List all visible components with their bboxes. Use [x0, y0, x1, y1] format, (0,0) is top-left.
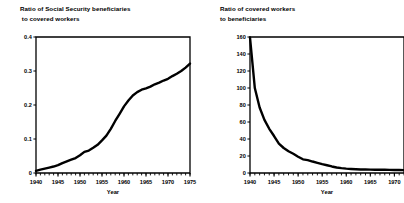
- x-tick-label: 1965: [140, 179, 152, 185]
- chart-right-canvas: 0204060801001201401601940194519501955196…: [202, 0, 404, 203]
- x-tick-label: 1960: [118, 179, 130, 185]
- chart-panel-right: Ratio of covered workersto beneficiaries…: [202, 0, 404, 203]
- data-series-line: [36, 64, 190, 171]
- x-tick-label: 1975: [184, 179, 196, 185]
- y-tick-label: 160: [236, 34, 245, 40]
- y-tick-label: 0: [243, 170, 246, 176]
- y-tick-label: 40: [240, 136, 246, 142]
- y-tick-label: 0: [29, 170, 32, 176]
- x-tick-label: 1970: [162, 179, 174, 185]
- y-tick-label: 140: [236, 51, 245, 57]
- x-tick-label: 1955: [316, 179, 328, 185]
- y-tick-label: 0.1: [24, 136, 32, 142]
- x-tick-label: 1940: [244, 179, 256, 185]
- x-tick-label: 1950: [292, 179, 304, 185]
- two-panel-figure: Ratio of Social Security beneficiaries t…: [0, 0, 404, 203]
- x-tick-label: 1945: [268, 179, 280, 185]
- y-tick-label: 120: [236, 68, 245, 74]
- y-tick-label: 0.4: [24, 34, 33, 40]
- y-tick-label: 0.2: [24, 102, 32, 108]
- y-tick-label: 0.3: [24, 68, 32, 74]
- data-series-line: [250, 38, 404, 171]
- chart-panel-left: Ratio of Social Security beneficiaries t…: [0, 0, 202, 203]
- plot-frame: [250, 37, 404, 173]
- x-tick-label: 1950: [74, 179, 86, 185]
- y-tick-label: 20: [240, 153, 246, 159]
- y-tick-label: 100: [236, 85, 245, 91]
- y-tick-label: 80: [240, 102, 246, 108]
- chart-left-canvas: 00.10.20.30.4194019451950195519601965197…: [0, 0, 202, 203]
- x-tick-label: 1965: [364, 179, 376, 185]
- x-axis-title: Year: [321, 189, 334, 195]
- x-tick-label: 1945: [52, 179, 64, 185]
- x-tick-label: 1955: [96, 179, 108, 185]
- plot-frame: [36, 37, 190, 173]
- y-tick-label: 60: [240, 119, 246, 125]
- x-axis-title: Year: [107, 189, 120, 195]
- x-tick-label: 1970: [388, 179, 400, 185]
- x-tick-label: 1940: [30, 179, 42, 185]
- x-tick-label: 1960: [340, 179, 352, 185]
